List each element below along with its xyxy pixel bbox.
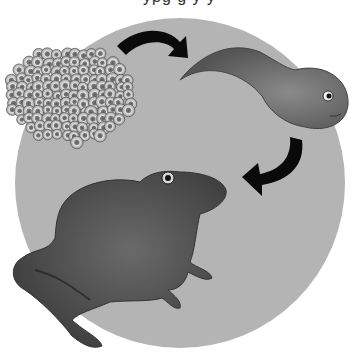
egg	[41, 65, 51, 75]
egg	[70, 136, 83, 149]
egg	[42, 88, 52, 98]
egg	[122, 104, 135, 117]
egg	[43, 130, 53, 140]
egg	[113, 114, 124, 125]
frog-life-cycle-illustration: (function(){ const g = document.getEleme…	[0, 0, 359, 360]
egg	[33, 130, 43, 140]
egg	[94, 129, 107, 142]
egg	[52, 129, 62, 139]
egg	[104, 121, 115, 132]
